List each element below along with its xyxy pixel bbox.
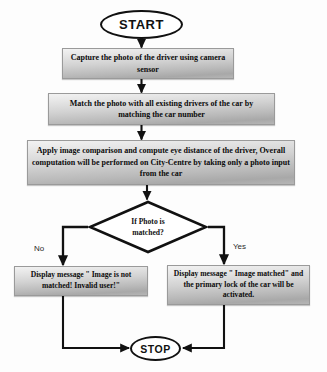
decision-diamond-shape [88, 200, 208, 254]
connector-not-matched-to-stop [63, 296, 129, 348]
start-terminator: START [100, 10, 183, 39]
process-apply-comparison-label: Apply image comparison and compute eye d… [32, 145, 290, 179]
process-apply-comparison: Apply image comparison and compute eye d… [27, 140, 295, 185]
process-display-not-matched: Display message " Image is not matched! … [14, 266, 148, 296]
branch-label-yes: Yes [233, 242, 246, 251]
process-capture-photo-label: Capture the photo of the driver using ca… [67, 52, 229, 75]
stop-terminator: STOP [130, 336, 181, 361]
connector-matched-to-stop [183, 305, 224, 348]
process-match-photo: Match the photo with all existing driver… [48, 93, 275, 125]
process-capture-photo: Capture the photo of the driver using ca… [62, 48, 234, 79]
connector-decision-yes [208, 227, 224, 264]
flowchart-canvas: START Capture the photo of the driver us… [0, 0, 327, 372]
process-display-matched: Display message " Image matched" and the… [167, 265, 310, 305]
branch-label-no: No [34, 244, 44, 253]
start-label: START [119, 17, 164, 32]
process-match-photo-label: Match the photo with all existing driver… [53, 98, 270, 121]
process-display-not-matched-label: Display message " Image is not matched! … [19, 270, 143, 292]
stop-label: STOP [140, 343, 170, 355]
decision-photo-matched: If Photo is matched? [88, 200, 208, 254]
connector-decision-no [63, 227, 88, 265]
process-display-matched-label: Display message " Image matched" and the… [172, 269, 305, 301]
